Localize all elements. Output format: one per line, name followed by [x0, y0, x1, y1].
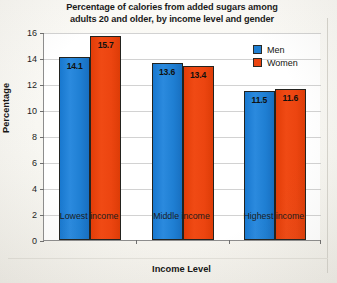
x-axis-tick [229, 240, 230, 244]
figure-border-bottom [8, 258, 328, 259]
y-axis-tick [40, 33, 44, 34]
bar-value-label: 13.4 [184, 70, 213, 80]
y-axis-label: 6 [32, 158, 37, 168]
y-axis-tick [40, 163, 44, 164]
y-axis-label: 4 [32, 184, 37, 194]
y-axis-title: Percentage [1, 83, 11, 133]
y-axis-label: 12 [27, 80, 37, 90]
chart-figure: Percentage of calories from added sugars… [0, 0, 337, 283]
y-axis-label: 2 [32, 210, 37, 220]
bar-value-label: 15.7 [91, 40, 120, 50]
y-axis-tick [40, 59, 44, 60]
y-axis-tick [40, 137, 44, 138]
y-axis-tick [40, 189, 44, 190]
y-axis-label: 16 [27, 28, 37, 38]
legend-item-men[interactable]: Men [253, 43, 298, 56]
chart-legend: MenWomen [253, 43, 298, 69]
x-axis-title: Income Level [43, 264, 320, 274]
legend-label: Men [267, 45, 285, 55]
chart-title-line-2: adults 20 and older, by income level and… [30, 14, 314, 26]
x-axis-tick [136, 240, 137, 244]
bar-value-label: 11.6 [276, 93, 305, 103]
y-axis-label: 14 [27, 54, 37, 64]
y-axis-label: 0 [32, 236, 37, 246]
x-axis-category-label: Highest income [228, 211, 320, 221]
y-axis-label: 10 [27, 106, 37, 116]
chart-title: Percentage of calories from added sugars… [30, 2, 314, 25]
figure-border-right [327, 18, 328, 273]
x-axis-category-label: Middle income [135, 211, 227, 221]
y-axis-label: 8 [32, 132, 37, 142]
legend-swatch-women [253, 58, 262, 67]
bar-value-label: 14.1 [60, 61, 89, 71]
legend-swatch-men [253, 45, 262, 54]
gridline [44, 33, 321, 34]
x-axis-tick [320, 240, 321, 244]
chart-title-line-1: Percentage of calories from added sugars… [30, 2, 314, 14]
bar-value-label: 11.5 [245, 95, 274, 105]
bar-value-label: 13.6 [153, 67, 182, 77]
legend-item-women[interactable]: Women [253, 56, 298, 69]
y-axis-tick [40, 111, 44, 112]
bar-women-lowest: 15.7 [90, 36, 121, 240]
x-axis-category-label: Lowest income [43, 211, 135, 221]
y-axis-tick [40, 241, 44, 242]
y-axis-tick [40, 85, 44, 86]
legend-label: Women [267, 58, 298, 68]
